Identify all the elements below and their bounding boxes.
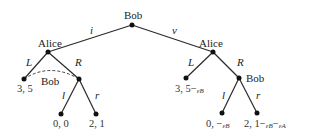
alice-right-node bbox=[211, 50, 216, 55]
leaf-left-l bbox=[59, 112, 64, 117]
alice-right-label: Alice bbox=[199, 37, 223, 49]
action-right-R: R bbox=[236, 56, 244, 68]
edge-left-r bbox=[79, 79, 96, 114]
leaf-right-l bbox=[220, 111, 225, 116]
action-i: i bbox=[90, 24, 93, 36]
leaf-right-r bbox=[255, 111, 260, 116]
root-player-label: Bob bbox=[124, 9, 143, 21]
payoff-left-l: 0, 0 bbox=[53, 118, 69, 129]
leaf-right-L bbox=[184, 76, 189, 81]
action-left-R: R bbox=[74, 56, 82, 68]
payoff-right-L: 3, 5−εB bbox=[175, 83, 204, 95]
action-right-L: L bbox=[187, 56, 194, 68]
leaf-left-L bbox=[22, 77, 27, 82]
bob-right-label: Bob bbox=[246, 72, 265, 84]
action-left-r: r bbox=[95, 89, 100, 101]
info-set-bob-label: Bob bbox=[41, 75, 60, 87]
action-right-l: l bbox=[222, 89, 225, 101]
alice-left-node bbox=[46, 50, 51, 55]
game-tree-diagram: Bob Alice Alice Bob Bob i v L R l r L R … bbox=[0, 0, 313, 138]
bob-left-node bbox=[77, 77, 82, 82]
payoff-right-r: 2, 1−εB−εA bbox=[244, 118, 286, 130]
root-node bbox=[130, 23, 135, 28]
edge-right-R bbox=[213, 52, 239, 78]
leaf-left-r bbox=[94, 112, 99, 117]
alice-left-label: Alice bbox=[38, 37, 62, 49]
bob-right-node bbox=[237, 76, 242, 81]
payoff-right-l: 0, −εB bbox=[206, 118, 230, 130]
payoff-left-L: 3, 5 bbox=[17, 83, 33, 94]
action-v: v bbox=[172, 24, 177, 36]
action-left-L: L bbox=[25, 56, 32, 68]
action-right-r: r bbox=[256, 89, 261, 101]
payoff-left-r: 2, 1 bbox=[89, 118, 105, 129]
action-left-l: l bbox=[62, 89, 65, 101]
